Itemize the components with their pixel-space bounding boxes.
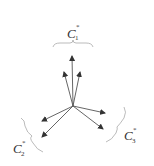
label-c2: C 2 * <box>13 139 26 158</box>
svg-text:2: 2 <box>21 150 25 158</box>
svg-text:*: * <box>133 126 137 134</box>
svg-text:*: * <box>22 139 26 147</box>
label-c3: C 3 * <box>124 126 137 145</box>
brace-c1 <box>53 40 93 47</box>
label-c1: C 1 * <box>67 23 80 42</box>
brace-c3 <box>106 107 126 142</box>
vector-cluster-diagram: C 1 * C 2 * C 3 * <box>0 0 154 166</box>
arrow-c1-c <box>73 72 80 106</box>
arrow-c1-a <box>72 56 73 106</box>
cluster-2-arrows <box>42 106 73 137</box>
arrow-c2-a <box>42 106 73 121</box>
cluster-1-arrows <box>64 56 80 106</box>
svg-text:3: 3 <box>132 137 136 145</box>
arrow-c2-b <box>42 106 73 137</box>
cluster-3-arrows <box>73 106 105 129</box>
svg-text:1: 1 <box>75 34 79 42</box>
arrow-c1-b <box>64 72 73 106</box>
svg-text:*: * <box>76 23 80 31</box>
